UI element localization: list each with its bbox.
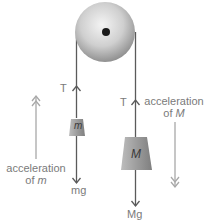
tension-label-right: T [120, 96, 127, 108]
pulley-axle [102, 28, 110, 36]
symbol-M: M [176, 107, 185, 119]
atwood-machine-diagram: T T m M mg Mg acceleration of m accelera… [0, 0, 205, 224]
large-mass-symbol: M [131, 147, 141, 161]
acceleration-label-small-line2: of m [6, 174, 66, 186]
acceleration-arrow-small-mass [32, 96, 40, 159]
acceleration-label-large-mass: acceleration of M [143, 95, 205, 119]
of-text: of [25, 174, 37, 186]
acceleration-label-small-mass: acceleration of m [6, 162, 66, 186]
acceleration-label-small-line1: acceleration [6, 162, 66, 174]
weight-label-large: Mg [127, 208, 142, 220]
pulley [75, 2, 135, 62]
symbol-m: m [38, 174, 47, 186]
weight-label-small: mg [71, 184, 86, 196]
acceleration-label-large-line2: of M [143, 107, 205, 119]
small-mass-weight-arrow [73, 136, 81, 183]
small-mass-symbol: m [74, 120, 82, 131]
large-mass-weight-arrow [132, 170, 140, 206]
of-text: of [163, 107, 175, 119]
acceleration-label-large-line1: acceleration [143, 95, 205, 107]
tension-label-left: T [60, 82, 67, 94]
acceleration-arrow-large-mass [171, 122, 179, 187]
